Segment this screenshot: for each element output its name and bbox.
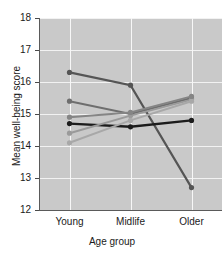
data-point-marker [128,124,133,129]
y-tick-mark [35,146,39,147]
y-tick-mark [35,210,39,211]
x-axis-line [39,210,222,211]
y-tick-mark [35,178,39,179]
data-point-marker [67,70,72,75]
data-point-marker [67,131,72,136]
data-point-marker [128,118,133,123]
y-tick-mark [35,82,39,83]
series-line [70,72,192,187]
line-chart: 18171615141312 YoungMidlifeOlder Mean we… [0,0,224,255]
data-point-marker [128,110,133,115]
data-point-marker [189,94,194,99]
y-tick-label: 12 [9,205,31,215]
data-point-marker [189,99,194,104]
data-point-marker [128,83,133,88]
data-point-marker [67,115,72,120]
data-point-marker [189,185,194,190]
data-point-marker [67,121,72,126]
x-axis-title: Age group [0,236,224,247]
x-tick-label: Young [40,216,100,227]
x-tick-label: Midlife [101,216,161,227]
data-point-marker [67,99,72,104]
y-tick-label: 17 [9,45,31,55]
y-axis-title: Mean well-being score [11,66,22,166]
data-point-marker [189,118,194,123]
y-tick-label: 13 [9,173,31,183]
data-point-marker [67,140,72,145]
x-tick-label: Older [162,216,222,227]
y-tick-mark [35,18,39,19]
y-tick-label: 18 [9,13,31,23]
y-tick-mark [35,114,39,115]
y-tick-mark [35,50,39,51]
y-axis-line [39,18,40,210]
